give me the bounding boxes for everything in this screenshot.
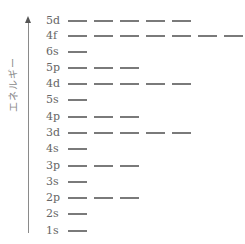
orbital-lines bbox=[68, 213, 87, 214]
orbital-lines bbox=[68, 165, 139, 166]
orbital-lines bbox=[68, 132, 191, 133]
orbital-line bbox=[68, 35, 87, 36]
energy-level-3s: 3s bbox=[46, 175, 87, 189]
orbital-lines bbox=[68, 148, 87, 149]
orbital-line bbox=[94, 83, 113, 84]
level-label: 5d bbox=[46, 14, 66, 28]
orbital-line bbox=[94, 67, 113, 68]
orbital-lines bbox=[68, 197, 139, 198]
orbital-lines bbox=[68, 83, 191, 84]
orbital-line bbox=[94, 165, 113, 166]
energy-level-3p: 3p bbox=[46, 159, 139, 173]
orbital-line bbox=[68, 83, 87, 84]
orbital-line bbox=[68, 230, 87, 231]
orbital-line bbox=[94, 20, 113, 21]
orbital-line bbox=[68, 67, 87, 68]
arrow-up-icon bbox=[25, 16, 31, 23]
orbital-line bbox=[68, 51, 87, 52]
orbital-lines bbox=[68, 51, 87, 52]
orbital-line bbox=[120, 197, 139, 198]
orbital-line bbox=[146, 20, 165, 21]
level-label: 3p bbox=[46, 159, 66, 173]
orbital-line bbox=[172, 20, 191, 21]
orbital-lines bbox=[68, 99, 87, 100]
level-label: 3s bbox=[46, 175, 66, 189]
energy-level-4f: 4f bbox=[46, 29, 243, 43]
energy-level-4d: 4d bbox=[46, 77, 191, 91]
energy-level-3d: 3d bbox=[46, 126, 191, 140]
level-label: 4p bbox=[46, 110, 66, 124]
orbital-line bbox=[68, 197, 87, 198]
level-label: 4f bbox=[46, 29, 66, 43]
orbital-line bbox=[68, 132, 87, 133]
level-label: 4d bbox=[46, 77, 66, 91]
energy-level-2s: 2s bbox=[46, 207, 87, 221]
orbital-line bbox=[94, 197, 113, 198]
orbital-line bbox=[172, 132, 191, 133]
orbital-line bbox=[120, 35, 139, 36]
orbital-line bbox=[172, 35, 191, 36]
energy-level-5p: 5p bbox=[46, 61, 139, 75]
energy-level-5d: 5d bbox=[46, 14, 191, 28]
orbital-line bbox=[120, 67, 139, 68]
level-label: 5p bbox=[46, 61, 66, 75]
orbital-line bbox=[146, 35, 165, 36]
level-label: 6s bbox=[46, 45, 66, 59]
level-label: 2s bbox=[46, 207, 66, 221]
orbital-line bbox=[120, 132, 139, 133]
orbital-line bbox=[68, 165, 87, 166]
orbital-lines bbox=[68, 67, 139, 68]
energy-level-4p: 4p bbox=[46, 110, 139, 124]
orbital-line bbox=[68, 20, 87, 21]
orbital-line bbox=[68, 99, 87, 100]
orbital-line bbox=[120, 116, 139, 117]
orbital-line bbox=[172, 83, 191, 84]
orbital-line bbox=[120, 165, 139, 166]
energy-level-1s: 1s bbox=[46, 224, 87, 238]
orbital-lines bbox=[68, 230, 87, 231]
orbital-line bbox=[68, 213, 87, 214]
orbital-line bbox=[146, 83, 165, 84]
orbital-lines bbox=[68, 181, 87, 182]
orbital-line bbox=[68, 148, 87, 149]
level-label: 4s bbox=[46, 142, 66, 156]
orbital-energy-diagram: エネルギー 5d4f6s5p4d5s4p3d4s3p3s2p2s1s bbox=[0, 0, 245, 244]
orbital-line bbox=[68, 181, 87, 182]
energy-level-5s: 5s bbox=[46, 93, 87, 107]
level-label: 3d bbox=[46, 126, 66, 140]
orbital-lines bbox=[68, 20, 191, 21]
orbital-line bbox=[68, 116, 87, 117]
orbital-line bbox=[224, 35, 243, 36]
orbital-line bbox=[94, 35, 113, 36]
orbital-lines bbox=[68, 35, 243, 36]
energy-axis-label: エネルギー bbox=[5, 57, 20, 112]
energy-level-2p: 2p bbox=[46, 191, 139, 205]
energy-axis-line bbox=[28, 22, 29, 233]
level-label: 1s bbox=[46, 224, 66, 238]
energy-level-6s: 6s bbox=[46, 45, 87, 59]
orbital-line bbox=[120, 20, 139, 21]
orbital-line bbox=[94, 132, 113, 133]
orbital-line bbox=[94, 116, 113, 117]
orbital-line bbox=[120, 83, 139, 84]
orbital-line bbox=[198, 35, 217, 36]
level-label: 5s bbox=[46, 93, 66, 107]
orbital-lines bbox=[68, 116, 139, 117]
energy-level-4s: 4s bbox=[46, 142, 87, 156]
orbital-line bbox=[146, 132, 165, 133]
level-label: 2p bbox=[46, 191, 66, 205]
